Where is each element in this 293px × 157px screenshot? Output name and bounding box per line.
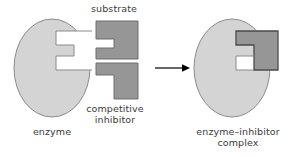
arrow-right-icon [155,64,190,72]
competitive-inhibitor-body [96,63,138,99]
enzyme-inhibitor-complex-shape [194,19,278,117]
substrate-body [96,21,138,59]
competitive-inhibitor-label: competitive inhibitor [70,103,160,125]
arrow-head [182,64,190,72]
enzyme-label: enzyme [12,126,92,137]
unoccupied-site-gap [236,56,254,70]
substrate-label: substrate [74,3,154,14]
substrate-shape [96,21,138,59]
enzyme-competitive-inhibition-diagram: substrate competitive inhibitor enzyme e… [0,0,293,157]
competitive-inhibitor-shape [96,63,138,99]
enzyme-inhibitor-complex-label: enzyme–inhibitor complex [186,126,290,148]
